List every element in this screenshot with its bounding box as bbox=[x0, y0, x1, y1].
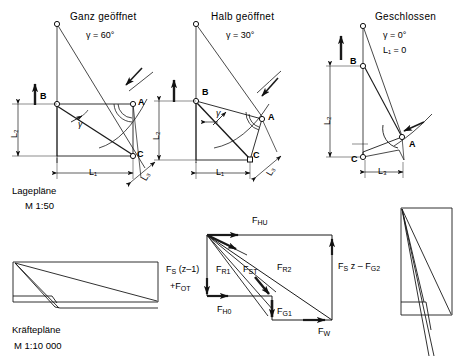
panel-open-geometry bbox=[12, 21, 155, 182]
panel-open-point-A: A bbox=[138, 98, 145, 107]
panel-closed-dim-L3: L₃ bbox=[378, 167, 387, 176]
panel-closed-title: Geschlossen bbox=[375, 12, 436, 22]
panel-closed-dim-L2: L₂ bbox=[323, 117, 332, 126]
force-label-FHU: FHU bbox=[252, 216, 268, 226]
force-label-FW: FW bbox=[318, 327, 330, 337]
panel-open-gamma-mark: γ bbox=[78, 120, 83, 129]
force-polygon-right bbox=[401, 208, 452, 356]
panel-half-dim-L2: L₂ bbox=[152, 132, 161, 141]
panel-open-point-C: C bbox=[137, 150, 144, 159]
force-polygon-left bbox=[13, 262, 158, 308]
caption-position-plans-title: Lagepläne bbox=[12, 186, 56, 196]
panel-open-dim-L1: L₁ bbox=[89, 168, 97, 177]
panel-half-point-C: C bbox=[253, 151, 260, 160]
panel-half-title: Halb geöffnet bbox=[211, 12, 274, 22]
panel-closed-point-A: A bbox=[409, 140, 416, 149]
force-label-FSz1: FS (z–1) bbox=[166, 265, 199, 275]
force-label-FSz-FG2: FS z – FG2 bbox=[338, 262, 380, 272]
caption-force-plans-scale: M 1:10 000 bbox=[14, 341, 62, 351]
panel-open-angle: γ = 60° bbox=[86, 31, 114, 40]
panel-half-angle: γ = 30° bbox=[226, 31, 254, 40]
panel-closed-geometry bbox=[326, 23, 432, 178]
panel-half-point-A: A bbox=[268, 113, 275, 122]
panel-closed-extra: L₁ = 0 bbox=[383, 46, 406, 55]
panel-open-point-B: B bbox=[40, 92, 47, 101]
panel-half-point-B: B bbox=[202, 88, 209, 97]
panel-closed-point-C: C bbox=[351, 155, 358, 164]
force-label-FH0: FH0 bbox=[217, 305, 231, 315]
force-label-FR2: FR2 bbox=[277, 263, 291, 273]
panel-closed-point-B: B bbox=[350, 57, 357, 66]
panel-half-gamma-mark: γ bbox=[216, 109, 221, 118]
force-label-FOT: +FOT bbox=[170, 282, 191, 292]
force-label-FR1: FR1 bbox=[216, 265, 230, 275]
panel-half-dim-L1: L₁ bbox=[216, 168, 224, 177]
panel-closed-angle: γ = 0° bbox=[383, 31, 406, 40]
panel-open-dim-L2: L₂ bbox=[10, 130, 19, 139]
caption-force-plans-title: Kräftepläne bbox=[12, 325, 61, 335]
panel-half-geometry bbox=[154, 21, 281, 179]
panel-open-title: Ganz geöffnet bbox=[70, 12, 137, 22]
figure-root: Ganz geöffnet γ = 60° B A C L₂ L₁ L₃ γ H… bbox=[0, 0, 469, 359]
force-label-FG1: FG1 bbox=[277, 307, 292, 317]
caption-position-plans-scale: M 1:50 bbox=[25, 201, 54, 211]
force-label-FST: FST bbox=[243, 265, 257, 275]
